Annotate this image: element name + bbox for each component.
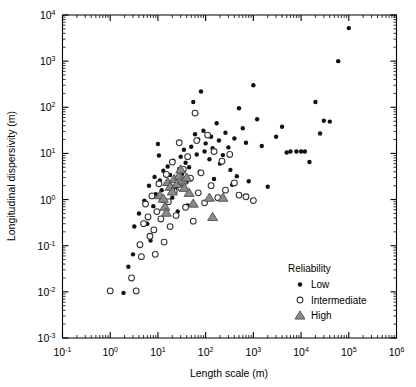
data-point-low: [189, 144, 193, 148]
data-point-low: [274, 135, 278, 139]
data-point-intermediate: [129, 275, 135, 281]
data-point-low: [201, 129, 205, 133]
data-point-intermediate: [211, 149, 217, 155]
data-point-intermediate: [138, 254, 144, 260]
data-point-low: [207, 157, 211, 161]
data-point-intermediate: [147, 233, 153, 239]
data-point-low: [131, 252, 135, 256]
data-point-low: [328, 119, 332, 123]
data-point-intermediate: [143, 201, 149, 207]
data-point-low: [226, 145, 230, 149]
data-point-intermediate: [158, 216, 164, 222]
legend-label-low: Low: [311, 279, 330, 290]
data-point-intermediate: [227, 152, 233, 158]
data-point-intermediate: [192, 110, 198, 116]
data-point-low: [235, 174, 239, 178]
data-point-intermediate: [154, 209, 160, 215]
data-point-intermediate: [183, 204, 189, 210]
data-point-intermediate: [190, 218, 196, 224]
data-point-low: [266, 185, 270, 189]
data-point-low: [157, 153, 161, 157]
data-point-low: [223, 131, 227, 135]
data-point-intermediate: [185, 154, 191, 160]
data-point-intermediate: [137, 242, 143, 248]
scatter-plot: 10-1100101102103104105106 10-310-210-110…: [0, 0, 416, 387]
data-point-low: [347, 26, 351, 30]
data-point-intermediate: [163, 172, 169, 178]
data-point-low: [137, 211, 141, 215]
data-point-low: [299, 149, 303, 153]
x-axis-title: Length scale (m): [190, 367, 268, 379]
data-point-low: [193, 132, 197, 136]
data-point-intermediate: [141, 221, 147, 227]
data-point-low: [202, 149, 206, 153]
data-point-intermediate: [219, 158, 225, 164]
data-point-low: [255, 117, 259, 121]
data-point-low: [187, 165, 191, 169]
data-point-low: [247, 179, 251, 183]
data-point-low: [285, 150, 289, 154]
data-point-intermediate: [243, 194, 249, 200]
data-point-low: [228, 168, 232, 172]
data-point-low: [237, 106, 241, 110]
data-point-intermediate: [195, 190, 201, 196]
data-point-intermediate: [149, 193, 155, 199]
data-point-intermediate: [161, 239, 167, 245]
data-point-low: [183, 160, 187, 164]
data-point-intermediate: [107, 288, 113, 294]
data-point-low: [199, 89, 203, 93]
data-point-low: [221, 153, 225, 157]
legend-marker-intermediate: [297, 297, 303, 303]
data-point-intermediate: [194, 138, 200, 144]
data-point-low: [336, 59, 340, 63]
data-point-low: [132, 224, 136, 228]
data-point-low: [156, 142, 160, 146]
data-point-low: [241, 126, 245, 130]
data-point-intermediate: [223, 187, 229, 193]
data-point-low: [147, 183, 151, 187]
figure-container: 10-1100101102103104105106 10-310-210-110…: [0, 0, 416, 387]
data-point-low: [294, 149, 298, 153]
data-point-low: [232, 136, 236, 140]
data-point-low: [260, 144, 264, 148]
data-point-low: [212, 177, 216, 181]
data-point-low: [195, 152, 199, 156]
data-point-low: [191, 100, 195, 104]
data-point-low: [203, 141, 207, 145]
data-point-intermediate: [156, 181, 162, 187]
data-point-low: [303, 149, 307, 153]
data-point-intermediate: [169, 159, 175, 165]
legend-marker-low: [298, 282, 302, 286]
data-point-low: [170, 195, 174, 199]
data-point-intermediate: [231, 180, 237, 186]
data-point-low: [214, 121, 218, 125]
data-point-low: [217, 138, 221, 142]
data-point-low: [313, 100, 317, 104]
y-axis-title: Longitudinal dispersivity (m): [5, 111, 17, 241]
data-point-low: [307, 160, 311, 164]
data-point-low: [121, 291, 125, 295]
data-point-intermediate: [208, 183, 214, 189]
data-point-low: [322, 119, 326, 123]
data-point-low: [178, 154, 182, 158]
data-point-intermediate: [145, 214, 151, 220]
data-point-low: [151, 204, 155, 208]
data-point-intermediate: [133, 288, 139, 294]
legend-label-high: High: [311, 310, 332, 321]
data-point-low: [244, 141, 248, 145]
data-point-intermediate: [250, 198, 256, 204]
data-point-intermediate: [236, 192, 242, 198]
data-point-intermediate: [152, 251, 158, 257]
legend-title: Reliability: [288, 263, 331, 274]
data-point-low: [318, 131, 322, 135]
data-point-intermediate: [198, 170, 204, 176]
data-point-intermediate: [167, 224, 173, 230]
data-point-low: [165, 164, 169, 168]
data-point-low: [251, 83, 255, 87]
data-point-low: [152, 175, 156, 179]
data-point-low: [288, 149, 292, 153]
data-point-intermediate: [151, 227, 157, 233]
data-point-intermediate: [173, 213, 179, 219]
data-point-low: [280, 124, 284, 128]
legend-label-intermediate: Intermediate: [311, 295, 367, 306]
